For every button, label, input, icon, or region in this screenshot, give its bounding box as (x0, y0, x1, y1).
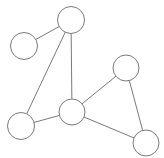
graph-node-center (59, 99, 85, 125)
graph-diagram-canvas (0, 0, 164, 158)
node-layer (8, 7, 160, 157)
graph-node-upper-left-small (11, 33, 38, 60)
graph-edge-n2-n1 (36, 27, 59, 40)
graph-svg (0, 0, 164, 158)
graph-node-right-upper (113, 55, 139, 81)
graph-edge-n4-n6 (84, 117, 134, 138)
graph-edge-n5-n6 (129, 81, 142, 131)
graph-node-bottom-left (8, 113, 35, 140)
graph-edge-n2-n4 (71, 34, 72, 100)
graph-edge-n3-n4 (34, 115, 59, 122)
edge-layer (27, 27, 143, 138)
graph-node-top (58, 7, 85, 34)
graph-node-bottom-right (133, 130, 159, 156)
graph-edge-n4-n5 (82, 76, 116, 104)
